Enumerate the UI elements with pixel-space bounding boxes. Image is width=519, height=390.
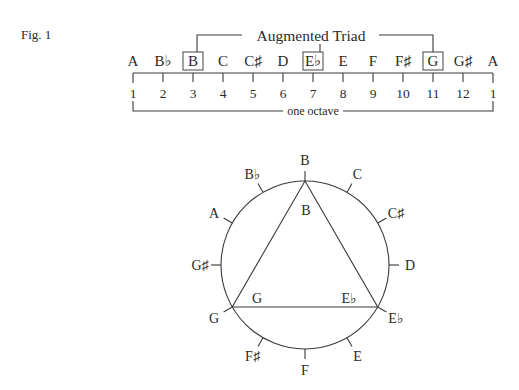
circle-note-label: G xyxy=(209,311,219,326)
scale-note: B♭ xyxy=(154,53,171,69)
circle-note-label: D xyxy=(405,258,415,273)
circle-note-label: C xyxy=(353,167,362,182)
bracket-title: Augmented Triad xyxy=(257,27,366,44)
bracket-left-segment xyxy=(197,35,245,52)
scale-degree-number: 3 xyxy=(190,86,197,101)
scale-degree-number: 10 xyxy=(396,86,410,101)
scale-note: G♯ xyxy=(454,53,473,69)
circle-note-label: E♭ xyxy=(388,311,403,326)
octave-bracket-right xyxy=(343,101,493,111)
scale-note: A xyxy=(488,53,499,69)
circle-tick xyxy=(347,184,352,193)
scale-degree-number: 6 xyxy=(280,86,287,101)
circle-tick xyxy=(378,218,387,223)
scale-note: B xyxy=(188,53,198,69)
augmented-triad-figure: Fig. 1 Augmented Triad A1B♭2B3C4C♯5D6E♭7… xyxy=(0,0,519,390)
scale-note: E♭ xyxy=(305,53,321,69)
circle-note-label: C♯ xyxy=(388,206,405,221)
scale-note: F xyxy=(369,53,377,69)
scale-note: E xyxy=(338,53,347,69)
octave-bracket-left xyxy=(133,101,283,111)
scale-degree-number: 1 xyxy=(490,86,497,101)
scale-note: A xyxy=(128,53,139,69)
scale-degree-number: 8 xyxy=(340,86,347,101)
scale-degree-number: 2 xyxy=(160,86,167,101)
scale-note: G xyxy=(428,53,439,69)
octave-label: one octave xyxy=(287,104,339,118)
triad-vertex-label: G xyxy=(252,291,262,306)
scale-degree-number: 9 xyxy=(370,86,377,101)
augmented-triad-bracket: Augmented Triad xyxy=(197,26,433,52)
circle-tick xyxy=(258,338,263,347)
circle-note-label: B♭ xyxy=(245,167,261,182)
circle-note-label: F♯ xyxy=(245,349,261,364)
circle-tick xyxy=(258,184,263,193)
diagram-canvas: Fig. 1 Augmented Triad A1B♭2B3C4C♯5D6E♭7… xyxy=(0,0,519,390)
circle-note-label: F xyxy=(301,363,309,378)
scale-note: C♯ xyxy=(244,53,262,69)
figure-label: Fig. 1 xyxy=(21,27,51,42)
circle-tick xyxy=(347,338,352,347)
circle-note-label: G♯ xyxy=(191,258,209,273)
circle-tick xyxy=(378,307,387,312)
scale-degree-number: 12 xyxy=(456,86,470,101)
pitch-circle: BCC♯DE♭EFF♯GG♯AB♭BGE♭ xyxy=(191,153,415,378)
circle-tick xyxy=(224,218,233,223)
scale-degree-number: 5 xyxy=(250,86,257,101)
scale-note: C xyxy=(218,53,228,69)
triad-vertex-label: B xyxy=(301,203,310,218)
scale-degree-number: 11 xyxy=(427,86,440,101)
scale-degree-number: 4 xyxy=(220,86,227,101)
circle-tick xyxy=(224,307,233,312)
chromatic-scale: A1B♭2B3C4C♯5D6E♭7E8F9F♯10G11G♯12A1 xyxy=(128,52,499,101)
scale-note: F♯ xyxy=(395,53,411,69)
circle-note-label: E xyxy=(353,349,362,364)
augmented-triad-triangle xyxy=(232,181,377,307)
circle-note-label: B xyxy=(300,153,309,168)
octave-bracket: one octave xyxy=(133,101,493,118)
bracket-right-segment xyxy=(377,35,433,52)
scale-degree-number: 1 xyxy=(130,86,137,101)
circle-note-label: A xyxy=(209,206,220,221)
scale-degree-number: 7 xyxy=(310,86,317,101)
triad-vertex-label: E♭ xyxy=(341,291,356,306)
scale-note: D xyxy=(278,53,289,69)
